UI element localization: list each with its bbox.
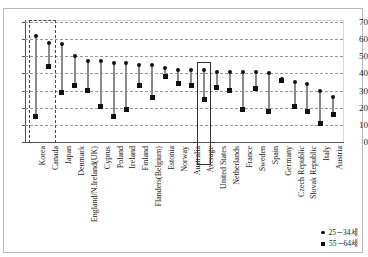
- connector-line: [74, 56, 76, 85]
- data-point-young: [163, 66, 167, 70]
- x-tick-label: Austria: [336, 146, 344, 170]
- data-point-young: [228, 70, 232, 74]
- x-tick-label: Slovak Republic: [310, 146, 318, 199]
- data-point-young: [241, 70, 245, 74]
- legend-label: 25－34세: [329, 227, 358, 238]
- data-point-old: [111, 114, 116, 119]
- data-point-old: [227, 88, 232, 93]
- x-tick-label: Flanders(Belgium): [155, 146, 163, 206]
- data-point-young: [293, 80, 297, 84]
- data-point-old: [318, 121, 323, 126]
- x-tick-label: England/N.Ireland(UK): [91, 146, 99, 222]
- x-tick-label: Ireland: [129, 146, 137, 169]
- y-tick-label: 60: [346, 35, 368, 44]
- legend-item: 25－34세: [321, 227, 358, 238]
- x-tick-label: Norway: [181, 146, 189, 172]
- data-point-old: [292, 104, 297, 109]
- data-point-young: [73, 54, 77, 58]
- data-point-old: [266, 109, 271, 114]
- x-tick-label: Canada: [52, 146, 60, 170]
- data-point-old: [189, 83, 194, 88]
- data-point-young: [150, 63, 154, 67]
- x-tick-label: Spain: [272, 146, 280, 164]
- data-point-old: [214, 85, 219, 90]
- legend-item: 55－64세: [321, 238, 358, 249]
- plot-area: [25, 22, 343, 142]
- plot-right-border: [343, 20, 344, 142]
- data-point-old: [124, 107, 129, 112]
- data-point-young: [254, 70, 258, 74]
- connector-line: [306, 84, 308, 111]
- chart-root: 706050403020100 KoreaCanadaJapanDenmarkE…: [0, 0, 368, 257]
- average-highlight: [197, 62, 211, 165]
- connector-line: [87, 61, 89, 90]
- circle-marker-icon: [321, 231, 325, 235]
- plot-top-border: [25, 20, 344, 21]
- connector-line: [294, 82, 296, 106]
- data-point-old: [305, 109, 310, 114]
- connector-line: [100, 61, 102, 106]
- x-tick-label: Cyprus: [104, 146, 112, 169]
- data-point-young: [99, 59, 103, 63]
- x-tick-label: Czech Republic: [298, 146, 306, 197]
- connector-line: [151, 65, 153, 98]
- x-tick-label: Sweden: [259, 146, 267, 171]
- x-tick-label: France: [246, 146, 254, 168]
- korea-canada-highlight: [29, 20, 56, 143]
- x-tick-label: Estonia: [168, 146, 176, 170]
- connector-line: [125, 63, 127, 109]
- data-point-old: [240, 107, 245, 112]
- data-point-young: [305, 82, 309, 86]
- y-tick-label: 0: [346, 138, 368, 147]
- data-point-young: [189, 68, 193, 72]
- y-tick-label: 20: [346, 104, 368, 113]
- data-point-young: [124, 61, 128, 65]
- data-point-young: [215, 70, 219, 74]
- data-point-young: [267, 71, 271, 75]
- data-point-young: [60, 42, 64, 46]
- data-point-old: [150, 95, 155, 100]
- data-point-old: [331, 112, 336, 117]
- x-tick-label: Korea: [39, 146, 47, 166]
- connector-line: [319, 91, 321, 124]
- connector-line: [113, 63, 115, 116]
- x-tick-label: Finland: [142, 146, 150, 170]
- data-point-young: [318, 89, 322, 93]
- data-point-old: [72, 83, 77, 88]
- data-point-old: [98, 104, 103, 109]
- connector-line: [61, 44, 63, 92]
- data-point-old: [163, 74, 168, 79]
- y-tick-label: 70: [346, 18, 368, 27]
- data-point-old: [279, 78, 284, 83]
- y-tick-label: 40: [346, 69, 368, 78]
- clipped-title: [0, 0, 368, 7]
- connector-line: [268, 73, 270, 111]
- data-point-young: [137, 63, 141, 67]
- x-tick-label: Poland: [117, 146, 125, 168]
- x-tick-label: Germany: [285, 146, 293, 176]
- y-tick-label: 50: [346, 52, 368, 61]
- x-tick-label: Denmark: [78, 146, 86, 176]
- data-point-old: [85, 88, 90, 93]
- data-point-old: [253, 86, 258, 91]
- data-point-old: [59, 90, 64, 95]
- legend-label: 55－64세: [329, 238, 358, 249]
- data-point-old: [137, 83, 142, 88]
- x-tick-label: Italy: [323, 146, 331, 161]
- y-tick-label: 30: [346, 87, 368, 96]
- data-point-young: [176, 68, 180, 72]
- square-marker-icon: [321, 242, 325, 246]
- x-tick-label: Netherlands: [233, 146, 241, 185]
- y-tick-label: 10: [346, 121, 368, 130]
- chart-legend: 25－34세55－64세: [321, 227, 358, 249]
- data-point-young: [112, 61, 116, 65]
- x-tick-label: Japan: [65, 146, 73, 164]
- x-tick-label: United States: [220, 146, 228, 189]
- y-tick-mark: [22, 142, 25, 143]
- connector-line: [242, 72, 244, 110]
- data-point-young: [331, 95, 335, 99]
- data-point-old: [176, 81, 181, 86]
- data-point-young: [86, 59, 90, 63]
- x-axis-line: [25, 142, 344, 143]
